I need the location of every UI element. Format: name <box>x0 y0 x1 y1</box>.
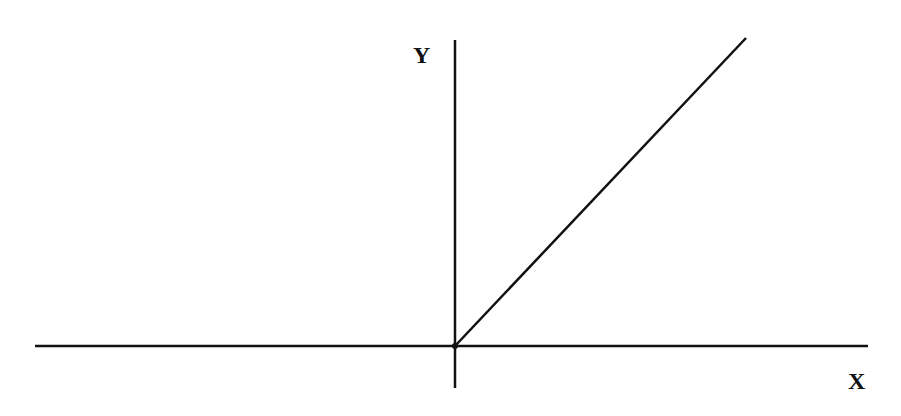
y-axis-label: Y <box>413 42 430 69</box>
function-line <box>455 38 746 346</box>
origin-point <box>452 343 458 349</box>
chart-canvas <box>0 0 901 416</box>
x-axis-label: X <box>848 368 865 395</box>
